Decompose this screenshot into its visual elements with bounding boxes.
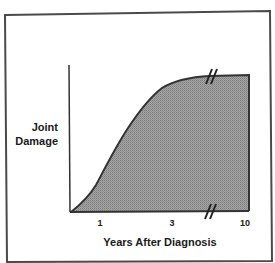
chart-figure: Joint Damage 1 3 10 Years After Diagnosi…	[0, 0, 275, 263]
x-axis	[70, 211, 249, 212]
x-axis-title: Years After Diagnosis	[103, 236, 216, 248]
y-axis	[69, 65, 70, 212]
damage-area	[71, 75, 249, 212]
x-tick-label: 3	[169, 218, 174, 228]
y-axis-label-line1: Joint	[32, 121, 59, 133]
y-axis-label-line2: Damage	[15, 135, 58, 147]
x-tick-label: 1	[97, 218, 102, 228]
x-tick-label: 10	[240, 218, 250, 228]
